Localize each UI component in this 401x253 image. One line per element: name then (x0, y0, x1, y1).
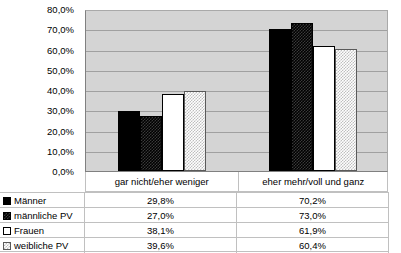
y-tick-label: 10,0% (47, 147, 74, 157)
y-tick-label: 30,0% (47, 106, 74, 116)
bar-eher-mehr-voll-und-ganz-männer (269, 29, 291, 171)
table-cell-value: 27,0% (85, 208, 237, 223)
gridline (86, 10, 388, 11)
bar-eher-mehr-voll-und-ganz-frauen (313, 46, 335, 171)
y-tick-label: 80,0% (47, 5, 74, 15)
legend-entry: Männer (0, 193, 85, 208)
legend-swatch-icon (3, 197, 11, 205)
legend-swatch-icon (3, 242, 11, 250)
legend-entry: Frauen (0, 223, 85, 238)
y-tick-label: 50,0% (47, 66, 74, 76)
legend-label: Männer (14, 193, 46, 208)
y-tick-label: 60,0% (47, 46, 74, 56)
y-axis: 0,0%10,0%20,0%30,0%40,0%50,0%60,0%70,0%8… (0, 0, 82, 172)
table-cell-value: 73,0% (237, 208, 389, 223)
legend-label: Frauen (14, 223, 44, 238)
table-cell-value: 29,8% (85, 193, 237, 208)
category-label: eher mehr/voll und ganz (238, 172, 390, 192)
legend-swatch-icon (3, 227, 11, 235)
bar-gar-nicht-eher-weniger-frauen (162, 94, 184, 171)
bar-gar-nicht-eher-weniger-weibliche-pv (184, 91, 206, 171)
legend-label: männliche PV (14, 208, 73, 223)
category-divider (238, 172, 239, 192)
category-label: gar nicht/eher weniger (86, 172, 238, 192)
table-cell-value: 38,1% (85, 223, 237, 238)
legend-entry: männliche PV (0, 208, 85, 223)
category-axis: gar nicht/eher wenigereher mehr/voll und… (85, 172, 388, 192)
legend-entry: weibliche PV (0, 238, 85, 253)
gridline (86, 30, 388, 31)
y-tick-label: 20,0% (47, 127, 74, 137)
table-row: weibliche PV39,6%60,4% (0, 238, 389, 253)
y-tick-label: 70,0% (47, 25, 74, 35)
bar-eher-mehr-voll-und-ganz-weibliche-pv (335, 49, 357, 171)
table-cell-value: 70,2% (237, 193, 389, 208)
table-row: männliche PV27,0%73,0% (0, 208, 389, 223)
legend-data-table: Männer29,8%70,2%männliche PV27,0%73,0%Fr… (0, 192, 389, 252)
bar-gar-nicht-eher-weniger-männliche-pv (140, 116, 162, 171)
bar-gar-nicht-eher-weniger-männer (118, 111, 140, 171)
table-cell-value: 61,9% (237, 223, 389, 238)
legend-label: weibliche PV (14, 238, 68, 253)
table-cell-value: 60,4% (237, 238, 389, 253)
table-row: Frauen38,1%61,9% (0, 223, 389, 238)
legend-swatch-icon (3, 212, 11, 220)
y-tick-label: 40,0% (47, 86, 74, 96)
table-row: Männer29,8%70,2% (0, 193, 389, 208)
bar-eher-mehr-voll-und-ganz-männliche-pv (291, 23, 313, 171)
y-tick-label: 0,0% (52, 167, 74, 177)
plot-area (85, 10, 388, 172)
table-cell-value: 39,6% (85, 238, 237, 253)
